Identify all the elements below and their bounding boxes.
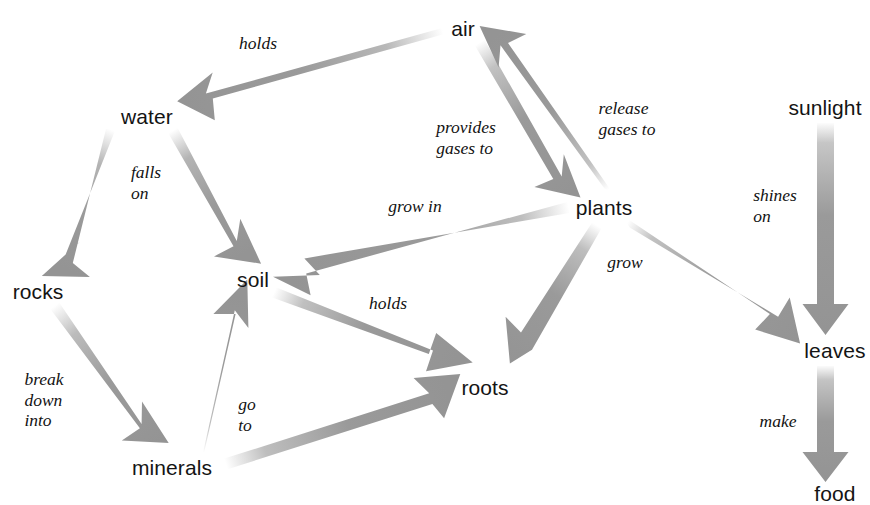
- edge-water-to-soil: [165, 124, 261, 264]
- edge-label-plants-roots-grow: grow: [607, 252, 642, 273]
- edge-label-leaves-food-make: make: [760, 411, 797, 432]
- edge-sunlight-to-leaves: [803, 123, 849, 335]
- node-rocks[interactable]: rocks: [13, 281, 64, 302]
- edge-layer: [0, 0, 870, 505]
- node-soil[interactable]: soil: [237, 269, 269, 290]
- edge-label-water-soil-falls-on: falls on: [131, 162, 161, 203]
- edge-label-plants-air-release-gases-to: release gases to: [599, 98, 656, 139]
- edge-label-rocks-minerals-break-down-into: break down into: [24, 369, 63, 431]
- edge-air-to-plants: [471, 32, 581, 197]
- node-leaves[interactable]: leaves: [804, 340, 865, 361]
- edge-plants-to-leaves: [622, 215, 800, 343]
- node-food[interactable]: food: [814, 483, 855, 504]
- edge-label-plants-soil-grow-in: grow in: [388, 196, 441, 217]
- edge-label-soil-roots-holds: holds: [369, 293, 407, 314]
- edge-label-sunlight-leaves-shines-on: shines on: [753, 185, 797, 226]
- edge-rocks-to-minerals: [47, 298, 169, 443]
- concept-map-diagram: air water sunlight plants soil rocks lea…: [0, 0, 870, 505]
- node-plants[interactable]: plants: [576, 197, 633, 218]
- edge-label-minerals-soil-go-to: go to: [238, 394, 256, 435]
- node-roots[interactable]: roots: [461, 377, 508, 398]
- edge-label-air-water-holds: holds: [239, 33, 277, 54]
- edge-plants-to-roots: [506, 221, 604, 363]
- node-minerals[interactable]: minerals: [132, 457, 212, 478]
- edge-air-to-water: [177, 17, 455, 121]
- edge-label-air-plants-provides-gases-to: provides gases to: [436, 117, 496, 158]
- edge-plants-to-air: [480, 26, 614, 194]
- node-air[interactable]: air: [451, 18, 475, 39]
- edge-leaves-to-food: [803, 366, 849, 482]
- node-water[interactable]: water: [121, 106, 173, 127]
- node-sunlight[interactable]: sunlight: [788, 97, 861, 118]
